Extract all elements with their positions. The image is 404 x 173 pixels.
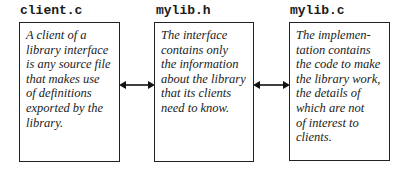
- node-description-client-c: A client of a library interface is any s…: [26, 28, 116, 130]
- node-description-mylib-h: The interface contains only the informat…: [161, 28, 250, 116]
- node-box-mylib-h: The interface contains only the informat…: [154, 22, 254, 162]
- node-box-client-c: A client of a library interface is any s…: [19, 22, 120, 162]
- bidirectional-arrow-icon: [119, 80, 155, 90]
- node-description-mylib-c: The implemen- tation contains the code t…: [296, 28, 386, 145]
- node-label-client-c: client.c: [20, 4, 82, 18]
- node-label-mylib-h: mylib.h: [156, 4, 211, 18]
- node-box-mylib-c: The implemen- tation contains the code t…: [289, 22, 390, 161]
- node-label-mylib-c: mylib.c: [290, 4, 345, 18]
- bidirectional-arrow-icon: [253, 80, 290, 90]
